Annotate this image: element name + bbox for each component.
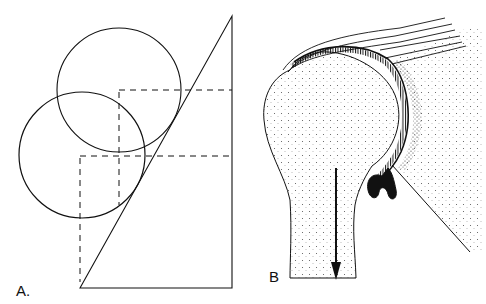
panel-a-label: A. bbox=[16, 282, 30, 299]
lower-circle bbox=[19, 92, 145, 218]
humerus bbox=[264, 52, 399, 278]
figure-canvas bbox=[0, 0, 486, 304]
dashed-construction-lines bbox=[80, 90, 232, 282]
panel-a-diagram bbox=[19, 16, 232, 288]
panel-b-label: B bbox=[269, 268, 279, 285]
right-triangle bbox=[80, 16, 232, 288]
panel-b-shoulder-illustration bbox=[264, 18, 482, 280]
